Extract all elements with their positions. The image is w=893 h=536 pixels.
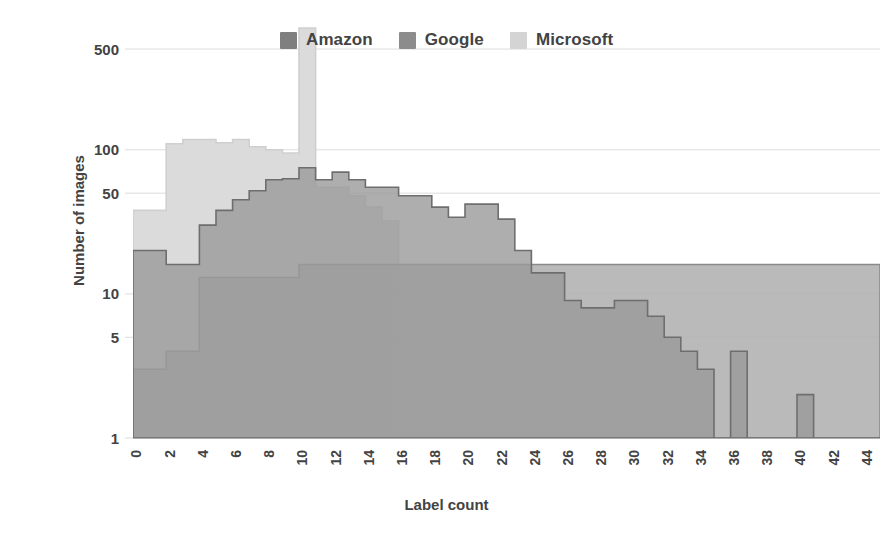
svg-text:2: 2: [162, 450, 178, 458]
legend-item-amazon[interactable]: Amazon: [280, 30, 373, 50]
svg-text:20: 20: [460, 450, 476, 466]
legend-swatch-google: [399, 32, 416, 49]
svg-text:28: 28: [593, 450, 609, 466]
legend-swatch-amazon: [280, 32, 297, 49]
svg-text:0: 0: [128, 450, 144, 458]
legend-item-google[interactable]: Google: [399, 30, 484, 50]
chart-legend: Amazon Google Microsoft: [280, 30, 613, 50]
chart-container: 1510501005000246810121416182022242628303…: [0, 0, 893, 536]
svg-text:34: 34: [693, 450, 709, 466]
svg-text:10: 10: [294, 450, 310, 466]
svg-text:32: 32: [660, 450, 676, 466]
svg-text:10: 10: [102, 285, 119, 302]
legend-label-google: Google: [425, 30, 484, 50]
svg-text:44: 44: [859, 450, 875, 466]
y-tick-labels: 151050100500: [94, 41, 119, 447]
legend-label-microsoft: Microsoft: [536, 30, 613, 50]
svg-text:30: 30: [626, 450, 642, 466]
svg-text:26: 26: [560, 450, 576, 466]
legend-swatch-microsoft: [510, 32, 527, 49]
svg-text:24: 24: [527, 450, 543, 466]
histogram-plot: 1510501005000246810121416182022242628303…: [0, 0, 893, 536]
x-tick-labels: 0246810121416182022242628303234363840424…: [128, 450, 874, 466]
svg-text:38: 38: [759, 450, 775, 466]
legend-label-amazon: Amazon: [306, 30, 373, 50]
svg-text:42: 42: [826, 450, 842, 466]
svg-text:18: 18: [427, 450, 443, 466]
svg-text:6: 6: [228, 450, 244, 458]
svg-text:4: 4: [195, 450, 211, 458]
svg-text:50: 50: [102, 185, 119, 202]
svg-text:8: 8: [261, 450, 277, 458]
svg-text:16: 16: [394, 450, 410, 466]
svg-text:500: 500: [94, 41, 119, 58]
x-axis-title: Label count: [0, 496, 893, 513]
svg-text:40: 40: [792, 450, 808, 466]
svg-text:12: 12: [328, 450, 344, 466]
svg-text:14: 14: [361, 450, 377, 466]
legend-item-microsoft[interactable]: Microsoft: [510, 30, 613, 50]
svg-text:5: 5: [111, 329, 119, 346]
series-group: [133, 28, 880, 438]
svg-text:36: 36: [726, 450, 742, 466]
svg-text:1: 1: [111, 430, 119, 447]
svg-text:100: 100: [94, 141, 119, 158]
svg-text:22: 22: [494, 450, 510, 466]
